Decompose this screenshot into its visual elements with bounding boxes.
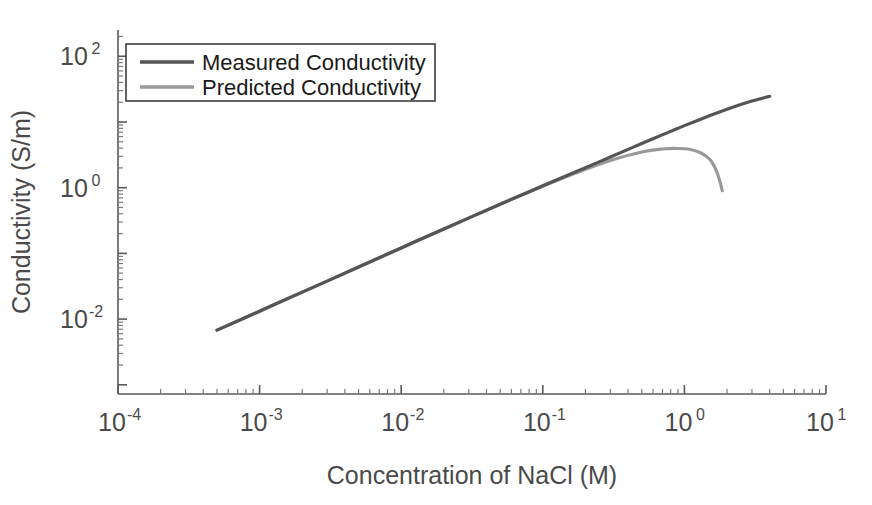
x-tick-label-exponent: 1 bbox=[838, 406, 847, 423]
y-tick-label: 10 bbox=[60, 174, 88, 202]
data-series-group bbox=[217, 96, 770, 330]
x-tick-label-exponent: -4 bbox=[127, 406, 141, 423]
y-tick-label-exponent: 0 bbox=[92, 172, 101, 189]
y-tick-label: 10 bbox=[60, 305, 88, 333]
x-tick-label: 10 bbox=[523, 408, 551, 436]
legend-label-predicted: Predicted Conductivity bbox=[202, 75, 421, 100]
x-tick-label: 10 bbox=[381, 408, 409, 436]
x-tick-label-exponent: -1 bbox=[552, 406, 566, 423]
y-tick-label: 10 bbox=[60, 42, 88, 70]
x-tick-label-exponent: -3 bbox=[268, 406, 282, 423]
x-tick-label: 10 bbox=[98, 408, 126, 436]
legend-label-measured: Measured Conductivity bbox=[202, 50, 426, 75]
x-tick-label: 10 bbox=[664, 408, 692, 436]
series-line-predicted bbox=[217, 148, 722, 330]
x-axis-title: Concentration of NaCl (M) bbox=[327, 461, 617, 489]
chart-figure: 10-410-310-210-1100101 10210010-2 Concen… bbox=[0, 0, 872, 505]
x-tick-label-exponent: -2 bbox=[410, 406, 424, 423]
chart-legend: Measured Conductivity Predicted Conducti… bbox=[126, 44, 435, 101]
x-tick-label: 10 bbox=[806, 408, 834, 436]
x-tick-label: 10 bbox=[240, 408, 268, 436]
y-tick-label-exponent: -2 bbox=[89, 303, 103, 320]
x-tick-label-exponent: 0 bbox=[696, 406, 705, 423]
x-axis-tick-labels: 10-410-310-210-1100101 bbox=[98, 406, 846, 436]
y-axis-tick-labels: 10210010-2 bbox=[60, 40, 103, 333]
chart-canvas: 10-410-310-210-1100101 10210010-2 Concen… bbox=[0, 0, 872, 505]
y-tick-label-exponent: 2 bbox=[92, 40, 101, 57]
series-line-measured bbox=[217, 96, 770, 330]
y-axis-title: Conductivity (S/m) bbox=[7, 110, 35, 314]
x-axis-ticks bbox=[118, 385, 826, 394]
